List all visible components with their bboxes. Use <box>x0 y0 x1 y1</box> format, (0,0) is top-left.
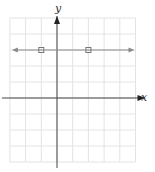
coordinate-plane <box>0 0 155 172</box>
y-axis-arrow-icon <box>54 16 60 24</box>
line-right-arrow-icon <box>129 48 135 53</box>
x-axis-label: x <box>141 92 147 103</box>
line-left-arrow-icon <box>12 48 18 53</box>
y-axis-label: y <box>55 3 61 14</box>
